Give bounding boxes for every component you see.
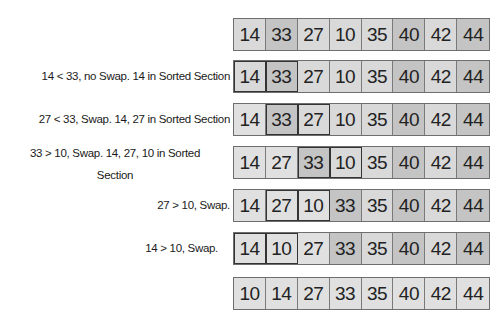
array-cell: 14 [234,19,266,50]
array-cell: 14 [234,61,266,92]
array-cell: 42 [425,233,457,264]
array-cell: 27 [298,19,330,50]
step-label-line-1: 33 > 10, Swap. 14, 27, 10 in Sorted [0,142,230,164]
array-cell: 35 [362,61,394,92]
array-row: 10 14 27 33 35 40 42 44 [233,277,490,310]
step-label: 27 > 10, Swap. [157,194,230,216]
array-cell: 42 [425,190,457,221]
array-row: 14 27 33 10 35 40 42 44 [233,146,490,179]
array-cell: 33 [330,233,362,264]
array-row: 14 33 27 10 35 40 42 44 [233,60,490,93]
array-cell: 14 [234,104,266,135]
array-cell: 14 [234,233,266,264]
array-cell: 44 [457,19,489,50]
array-cell: 10 [266,233,298,264]
array-cell: 35 [362,147,394,178]
array-cell: 27 [298,233,330,264]
array-cell: 14 [234,190,266,221]
array-cell: 33 [266,19,298,50]
step-label: 27 < 33, Swap. 14, 27 in Sorted Section [39,108,230,130]
step-label: 14 < 33, no Swap. 14 in Sorted Section [42,65,230,87]
array-cell: 40 [393,104,425,135]
array-cell: 27 [298,104,330,135]
array-cell: 10 [330,147,362,178]
array-cell: 42 [425,147,457,178]
array-cell: 10 [330,19,362,50]
array-cell: 44 [457,190,489,221]
array-row: 14 27 10 33 35 40 42 44 [233,189,490,222]
array-cell: 35 [362,278,394,309]
array-row: 14 10 27 33 35 40 42 44 [233,232,490,265]
step-label-line-2: Section [0,164,230,186]
array-cell: 10 [298,190,330,221]
array-cell: 40 [393,278,425,309]
array-cell: 27 [298,61,330,92]
array-cell: 40 [393,147,425,178]
array-cell: 42 [425,104,457,135]
array-cell: 40 [393,61,425,92]
array-cell: 10 [330,104,362,135]
array-cell: 44 [457,233,489,264]
array-cell: 33 [266,61,298,92]
array-cell: 35 [362,104,394,135]
array-cell: 44 [457,61,489,92]
array-row: 14 33 27 10 35 40 42 44 [233,18,490,51]
array-cell: 27 [298,278,330,309]
array-cell: 33 [298,147,330,178]
array-cell: 42 [425,61,457,92]
array-cell: 40 [393,190,425,221]
array-cell: 42 [425,278,457,309]
array-cell: 35 [362,190,394,221]
array-cell: 33 [330,190,362,221]
array-cell: 14 [266,278,298,309]
array-cell: 35 [362,233,394,264]
array-cell: 10 [330,61,362,92]
array-cell: 14 [234,147,266,178]
step-label: 14 > 10, Swap. [145,237,218,259]
array-cell: 35 [362,19,394,50]
array-cell: 33 [330,278,362,309]
array-cell: 27 [266,190,298,221]
array-cell: 33 [266,104,298,135]
array-cell: 44 [457,147,489,178]
array-cell: 44 [457,278,489,309]
array-cell: 40 [393,233,425,264]
array-cell: 42 [425,19,457,50]
array-cell: 40 [393,19,425,50]
array-cell: 27 [266,147,298,178]
array-cell: 44 [457,104,489,135]
array-row: 14 33 27 10 35 40 42 44 [233,103,490,136]
array-cell: 10 [234,278,266,309]
step-label: 33 > 10, Swap. 14, 27, 10 in Sorted Sect… [0,142,230,186]
